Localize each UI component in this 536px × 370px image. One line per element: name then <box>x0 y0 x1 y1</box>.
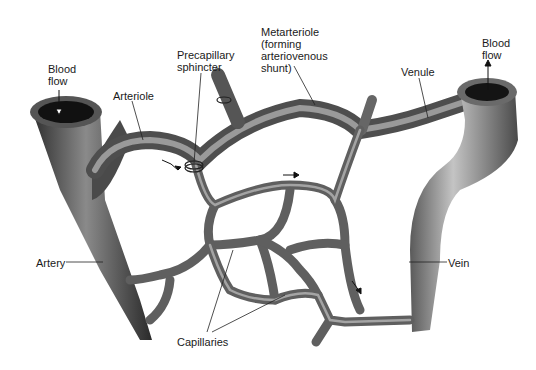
label-vein: Vein <box>448 257 469 269</box>
capillary-network <box>130 130 410 342</box>
label-artery: Artery <box>36 257 65 269</box>
label-capillaries: Capillaries <box>177 336 228 348</box>
label-venule: Venule <box>401 66 435 78</box>
label-metarteriole: Metarteriole (forming arteriovenous shun… <box>261 26 328 74</box>
label-precapillary-sphincter: Precapillary sphincter <box>177 49 234 73</box>
label-blood-flow-out: Blood flow <box>482 37 510 61</box>
label-arteriole: Arteriole <box>113 90 154 102</box>
label-blood-flow-in: Blood flow <box>48 63 76 87</box>
